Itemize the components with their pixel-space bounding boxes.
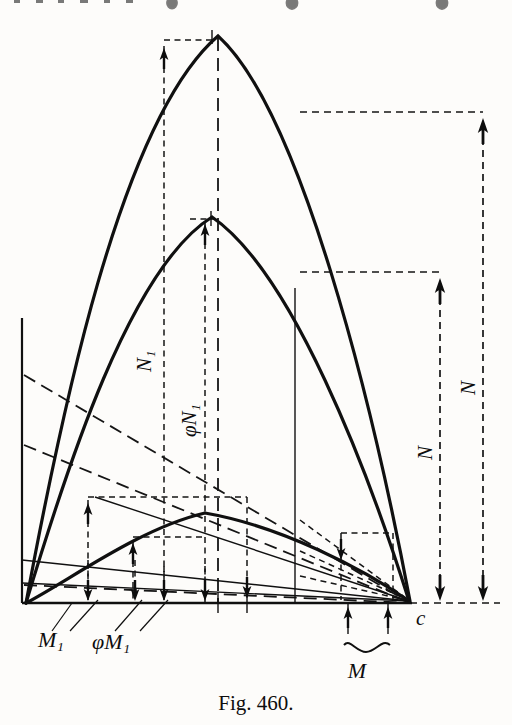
cut-text-row-above [14, 0, 448, 9]
svg-text:N: N [456, 380, 480, 396]
moment-bracket-arrows [344, 603, 393, 634]
moment-brace [344, 643, 390, 652]
apex-ticks [211, 30, 212, 226]
dimension-phi-n1 [201, 222, 210, 603]
lower-dim-rect-outer [84, 497, 252, 600]
label-phi-m1: φM₁ [92, 629, 130, 654]
figure-caption: Fig. 460. [218, 691, 293, 715]
svg-text:N₁: N₁ [132, 351, 156, 373]
label-n1: N₁ [132, 351, 156, 373]
label-m1: M₁ [37, 627, 64, 652]
lower-dim-box-right [337, 533, 393, 600]
label-point-c: c [416, 606, 426, 630]
figure-460-diagram: N₁ φN₁ N N M₁ φM₁ M c Fig. 460. [0, 0, 512, 725]
label-m-bracket: M [347, 658, 368, 683]
solid-chords-to-c [22, 497, 409, 601]
label-phi-n1: φN₁ [177, 404, 201, 437]
svg-text:φN₁: φN₁ [177, 404, 201, 437]
baseline-down-arrows [84, 560, 210, 601]
label-n-outer: N [456, 380, 480, 396]
figure-container: N₁ φN₁ N N M₁ φM₁ M c Fig. 460. [0, 0, 512, 725]
label-n-inner: N [413, 445, 437, 461]
svg-text:N: N [413, 445, 437, 461]
label-leaders [52, 600, 168, 631]
